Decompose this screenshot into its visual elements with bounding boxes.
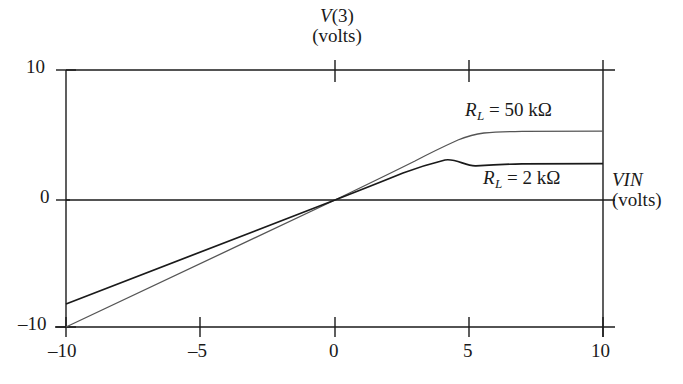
x-axis-title-line1: VIN xyxy=(612,170,662,190)
x-tick-label-neg5: –5 xyxy=(188,341,207,361)
x-tick-label-10: 10 xyxy=(591,341,610,361)
curve-label-rl-50k: RL = 50 kΩ xyxy=(465,100,552,123)
x-axis-title: VIN (volts) xyxy=(612,170,662,210)
curve-label-rl-2k-subscript: L xyxy=(495,176,503,191)
curve-rl-50k xyxy=(66,131,603,327)
x-axis-title-vin: VIN xyxy=(612,169,643,190)
curve-label-rl-2k-value: = 2 kΩ xyxy=(507,167,560,188)
x-tick-label-neg10: –10 xyxy=(48,341,77,361)
y-axis-title-line1: V(3) xyxy=(267,6,407,26)
curve-label-rl-50k-value: = 50 kΩ xyxy=(489,99,552,120)
y-axis-title: V(3) (volts) xyxy=(267,6,407,46)
curve-label-rl-50k-subscript: L xyxy=(477,108,485,123)
y-tick-label-0: 0 xyxy=(40,187,50,207)
x-axis-title-line2: (volts) xyxy=(612,190,662,210)
x-axis-ticks-top xyxy=(335,60,469,82)
plot-canvas xyxy=(0,0,683,384)
curve-label-rl-50k-r: R xyxy=(465,99,477,120)
x-tick-label-0: 0 xyxy=(329,341,339,361)
curve-label-rl-2k: RL = 2 kΩ xyxy=(483,168,560,191)
x-tick-label-5: 5 xyxy=(463,341,473,361)
transfer-characteristic-figure: V(3) (volts) 10 0 –10 –10 –5 0 5 10 VIN … xyxy=(0,0,683,384)
y-axis-title-line2: (volts) xyxy=(267,26,407,46)
y-tick-label-neg10: –10 xyxy=(18,314,47,334)
y-tick-label-10: 10 xyxy=(26,57,45,77)
curve-label-rl-2k-r: R xyxy=(483,167,495,188)
